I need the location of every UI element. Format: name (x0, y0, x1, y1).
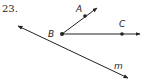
geometry-diagram: A B C m (0, 0, 145, 81)
point-a-dot (83, 14, 87, 18)
point-c-dot (120, 32, 124, 36)
label-c: C (119, 19, 126, 29)
label-b: B (48, 29, 54, 39)
label-a: A (75, 4, 82, 14)
point-b-dot (60, 32, 64, 36)
label-m: m (114, 61, 123, 71)
